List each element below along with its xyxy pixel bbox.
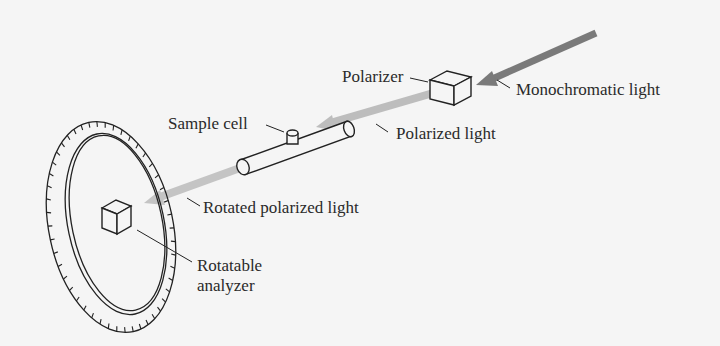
label-polarized-light: Polarized light [396,124,496,143]
polarizer-box [430,71,471,105]
analyzer-box [102,200,131,234]
sample-cell [235,120,357,177]
polarimeter-diagram [0,0,720,346]
label-rotatable-analyzer-1: Rotatable [197,256,262,275]
label-polarizer: Polarizer [342,67,403,86]
monochromatic-beam [476,33,596,86]
label-sample-cell: Sample cell [168,114,248,133]
label-rotated-polarized-light: Rotated polarized light [203,198,359,217]
label-monochromatic-light: Monochromatic light [516,80,660,99]
label-rotatable-analyzer-2: analyzer [197,276,255,295]
